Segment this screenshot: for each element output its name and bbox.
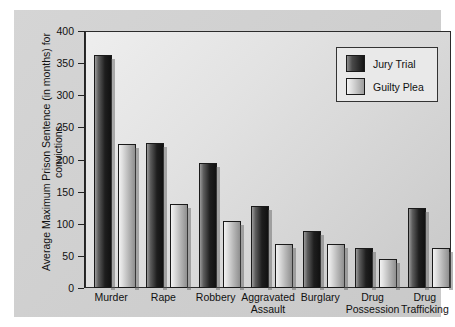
legend-label-guilty-plea: Guilty Plea (373, 81, 424, 93)
bar-plea (275, 244, 293, 288)
bar-shadow (425, 212, 429, 290)
bar-shadow (135, 148, 139, 290)
y-tick-label-250: 250 (48, 122, 74, 132)
y-tick-100 (78, 224, 84, 225)
bar-jury (251, 206, 269, 288)
chart-panel: Average Maximum Prison Sentence (in mont… (14, 10, 441, 317)
bar-group (251, 31, 297, 288)
chart-figure: Average Maximum Prison Sentence (in mont… (0, 0, 455, 327)
legend-swatch-jury-trial (346, 55, 365, 72)
bar-group (146, 31, 192, 288)
bar-shadow (240, 225, 244, 290)
bar-shadow (344, 248, 348, 290)
legend-swatch-guilty-plea (346, 78, 365, 95)
y-tick-label-200: 200 (48, 155, 74, 165)
bar-jury (408, 208, 426, 288)
bar-jury (146, 143, 164, 288)
bar-plea (223, 221, 241, 288)
y-tick-300 (78, 95, 84, 96)
bar-shadow (320, 235, 324, 290)
y-tick-50 (78, 256, 84, 257)
y-tick-label-400: 400 (48, 26, 74, 36)
bar-plea (379, 259, 397, 288)
y-tick-250 (78, 127, 84, 128)
bar-plea (118, 144, 136, 288)
y-tick-label-150: 150 (48, 187, 74, 197)
bar-shadow (396, 263, 400, 290)
y-tick-150 (78, 192, 84, 193)
bar-jury (303, 231, 321, 288)
bar-group (94, 31, 140, 288)
y-tick-label-350: 350 (48, 58, 74, 68)
bar-shadow (163, 147, 167, 290)
y-tick-label-300: 300 (48, 90, 74, 100)
bar-jury (355, 248, 373, 288)
bar-plea (170, 204, 188, 288)
bar-shadow (268, 210, 272, 290)
y-tick-label-0: 0 (48, 283, 74, 293)
y-tick-0 (78, 288, 84, 289)
bar-shadow (292, 248, 296, 290)
x-axis-label: Drug Trafficking (391, 292, 455, 315)
bar-group (199, 31, 245, 288)
bar-jury (94, 55, 112, 288)
legend: Jury Trial Guilty Plea (336, 47, 438, 102)
bar-jury (199, 163, 217, 288)
y-tick-label-50: 50 (48, 251, 74, 261)
y-tick-200 (78, 160, 84, 161)
bar-shadow (372, 252, 376, 290)
legend-label-jury-trial: Jury Trial (373, 58, 416, 70)
y-tick-label-100: 100 (48, 219, 74, 229)
bar-shadow (111, 59, 115, 290)
bar-shadow (216, 167, 220, 290)
bar-shadow (449, 252, 453, 290)
bar-plea (432, 248, 450, 288)
y-tick-400 (78, 31, 84, 32)
y-tick-350 (78, 63, 84, 64)
bar-plea (327, 244, 345, 288)
bar-shadow (187, 208, 191, 290)
